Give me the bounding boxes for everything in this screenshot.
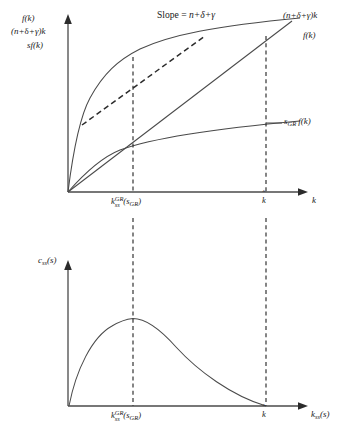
consumption-curve <box>69 319 266 407</box>
top-y-axis-arrowhead <box>64 14 72 24</box>
solow-diagram-svg <box>0 0 350 438</box>
bottom-y-axis-label: css(s) <box>38 256 56 265</box>
top-x-axis-arrowhead <box>298 188 308 196</box>
top-tick-label-k-hat: ˆk <box>262 196 266 205</box>
slope-annotation: Slope = n+δ+γ <box>157 10 215 20</box>
tangent-dashed-line <box>82 36 205 125</box>
curve-label-depreciation-line: (n+δ+γ)k <box>283 11 317 20</box>
saving-function-curve <box>68 121 300 192</box>
bottom-tick-label-k-golden: kGRss(sGR) <box>111 410 141 422</box>
top-y-axis-label-fk: f(k) <box>22 14 35 23</box>
top-y-axis-label-depreciation: (n+δ+γ)k <box>11 27 45 36</box>
bottom-y-axis-arrowhead <box>64 260 72 270</box>
bottom-panel-group <box>64 218 308 410</box>
top-tick-label-k-golden: kGRss(sGR) <box>111 196 141 208</box>
top-y-axis-label-saving: sf(k) <box>27 41 43 50</box>
bottom-x-axis-arrowhead <box>298 402 308 410</box>
curve-label-saving-function: sGR f(k) <box>284 117 311 126</box>
bottom-x-axis-label: kss(s) <box>311 410 329 419</box>
curve-label-production-function: f(k) <box>303 31 316 40</box>
bottom-tick-label-k-hat: ˆk <box>262 410 266 419</box>
top-x-axis-label: k <box>312 196 316 205</box>
top-panel-group <box>64 14 308 196</box>
figure-container: f(k) (n+δ+γ)k sf(k) Slope = n+δ+γ (n+δ+γ… <box>0 0 350 438</box>
depreciation-line <box>68 21 292 192</box>
